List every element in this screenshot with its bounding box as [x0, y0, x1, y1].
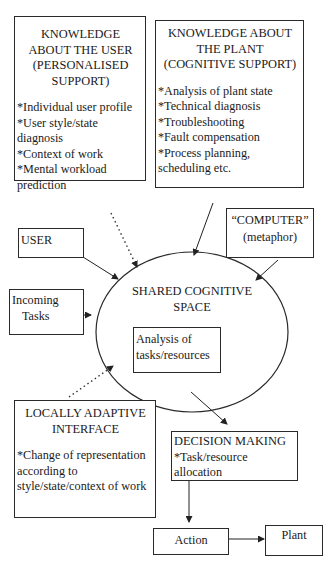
title-line: INTERFACE	[17, 422, 154, 438]
arrow-user-to-space	[83, 257, 118, 279]
title-line: KNOWLEDGE	[17, 27, 144, 43]
computer-sublabel: (metaphor)	[227, 230, 313, 246]
plant-box: Plant	[265, 525, 323, 556]
list-item: *Task/resource	[174, 450, 297, 466]
list-item: style/state/context of work	[17, 479, 154, 495]
list-item: *Mental workload	[17, 162, 144, 178]
computer-box: “COMPUTER” (metaphor)	[226, 208, 314, 258]
adaptive-interface-title: LOCALLY ADAPTIVE INTERFACE	[17, 406, 154, 437]
list-item: prediction	[17, 178, 144, 194]
list-item: scheduling etc.	[158, 161, 302, 177]
plant-knowledge-box: KNOWLEDGE ABOUT THE PLANT (COGNITIVE SUP…	[155, 20, 304, 188]
title-line: ABOUT THE USER	[17, 43, 144, 59]
arrow-interface-to-space	[69, 366, 113, 397]
list-item: *Change of representation	[17, 448, 154, 464]
title-line: (COGNITIVE SUPPORT)	[158, 57, 302, 73]
plant-knowledge-title: KNOWLEDGE ABOUT THE PLANT (COGNITIVE SUP…	[158, 26, 302, 73]
list-item: *Context of work	[17, 147, 144, 163]
user-knowledge-box: KNOWLEDGE ABOUT THE USER (PERSONALISED S…	[14, 16, 146, 181]
list-item: *Fault compensation	[158, 130, 302, 146]
list-item: *Technical diagnosis	[158, 99, 302, 115]
action-label: Action	[174, 533, 207, 547]
title-line: SUPPORT)	[17, 74, 144, 90]
plant-label: Plant	[281, 528, 306, 542]
shared-space-label: SHARED COGNITIVE SPACE	[110, 283, 274, 315]
list-item: according to	[17, 464, 154, 480]
decision-making-box: DECISION MAKING *Task/resource allocatio…	[171, 431, 298, 481]
analysis-line1: Analysis of	[136, 332, 220, 348]
incoming-tasks-line2: Tasks	[12, 309, 83, 325]
user-label: USER	[21, 233, 52, 247]
arrow-computer-to-space	[256, 260, 278, 280]
arrow-user-knowledge-to-space	[111, 213, 137, 267]
incoming-tasks-line1: Incoming	[12, 293, 83, 309]
analysis-box: Analysis of tasks/resources	[133, 327, 221, 373]
list-item: *Process planning,	[158, 146, 302, 162]
computer-label: “COMPUTER”	[227, 213, 313, 229]
user-knowledge-title: KNOWLEDGE ABOUT THE USER (PERSONALISED S…	[17, 27, 144, 89]
list-item: *Troubleshooting	[158, 115, 302, 131]
title-line: KNOWLEDGE ABOUT	[158, 26, 302, 42]
list-item: diagnosis	[17, 131, 144, 147]
list-item: *User style/state	[17, 116, 144, 132]
title-line: LOCALLY ADAPTIVE	[17, 406, 154, 422]
decision-making-title: DECISION MAKING	[174, 434, 297, 450]
user-knowledge-items: *Individual user profile *User style/sta…	[17, 100, 144, 193]
title-line: THE PLANT	[158, 42, 302, 58]
list-item: allocation	[174, 465, 297, 481]
arrow-plant-knowledge-to-space	[194, 203, 213, 255]
adaptive-interface-box: LOCALLY ADAPTIVE INTERFACE *Change of re…	[14, 400, 156, 518]
incoming-tasks-box: Incoming Tasks	[9, 289, 84, 335]
shared-space-line1: SHARED COGNITIVE	[110, 283, 274, 299]
list-item: *Individual user profile	[17, 100, 144, 116]
list-item: *Analysis of plant state	[158, 84, 302, 100]
shared-space-line2: SPACE	[110, 299, 274, 315]
plant-knowledge-items: *Analysis of plant state *Technical diag…	[158, 84, 302, 177]
user-box: USER	[18, 228, 84, 258]
analysis-line2: tasks/resources	[136, 348, 220, 364]
adaptive-interface-items: *Change of representation according to s…	[17, 448, 154, 495]
action-box: Action	[153, 528, 229, 555]
title-line: (PERSONALISED	[17, 58, 144, 74]
